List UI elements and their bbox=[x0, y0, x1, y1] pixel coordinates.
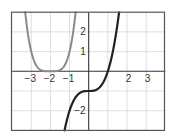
x-tick-label: −3 bbox=[25, 73, 37, 84]
x-tick-label: 2 bbox=[126, 73, 132, 84]
function-graph: −3−2−12321−2 bbox=[0, 0, 176, 138]
y-tick-label: 2 bbox=[80, 26, 86, 37]
y-tick-label: −2 bbox=[74, 105, 86, 116]
axes bbox=[12, 12, 165, 130]
x-tick-label: −1 bbox=[63, 73, 75, 84]
y-tick-label: 1 bbox=[80, 46, 86, 57]
x-tick-label: −2 bbox=[44, 73, 56, 84]
x-tick-label: 3 bbox=[145, 73, 151, 84]
